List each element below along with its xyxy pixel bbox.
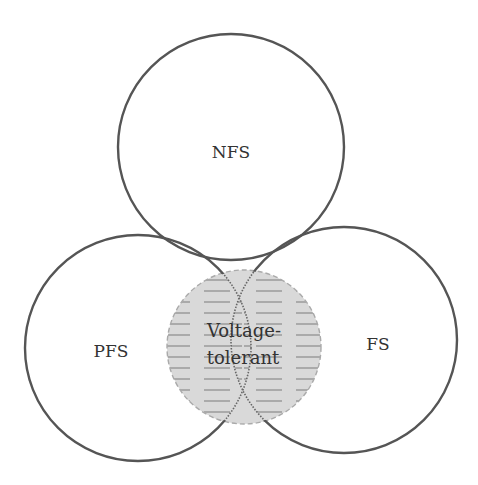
label-overlap-line1: Voltage- [206, 320, 281, 341]
label-nfs: NFS [212, 142, 250, 162]
label-fs: FS [366, 334, 389, 354]
venn-diagram: NFS PFS FS Voltage- tolerant [0, 0, 478, 485]
venn-svg: NFS PFS FS Voltage- tolerant [0, 0, 478, 485]
label-pfs: PFS [94, 341, 129, 361]
label-overlap-line2: tolerant [207, 347, 280, 368]
